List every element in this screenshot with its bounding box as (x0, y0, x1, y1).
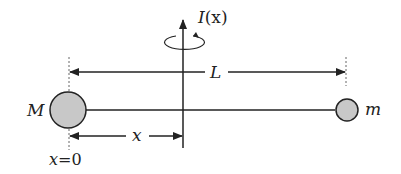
large-mass-label: M (26, 100, 45, 120)
rotation-arrow-icon (165, 32, 205, 49)
small-mass-label: m (365, 99, 381, 119)
diagram-canvas: I(x) L M m x x=0 (0, 0, 401, 174)
small-mass-m (336, 99, 358, 121)
rod-rotation-diagram: I(x) L M m x x=0 (0, 0, 401, 174)
large-mass-M (50, 92, 86, 128)
moment-of-inertia-label: I(x) (197, 7, 228, 27)
length-label: L (209, 62, 221, 82)
origin-label: x=0 (49, 150, 82, 169)
distance-label: x (132, 125, 142, 145)
